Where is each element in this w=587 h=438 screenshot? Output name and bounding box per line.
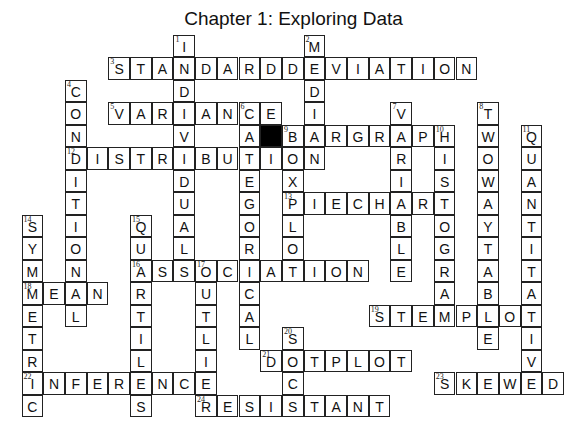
crossword-cell[interactable]: R [239,237,261,260]
crossword-cell[interactable]: E [239,170,261,193]
crossword-cell[interactable]: I [412,57,434,80]
crossword-cell[interactable]: L [477,305,499,328]
crossword-cell[interactable]: P [325,350,347,373]
crossword-cell[interactable]: O [282,147,304,170]
crossword-cell[interactable]: T [130,57,152,80]
crossword-cell[interactable]: 21D [260,350,282,373]
crossword-cell[interactable]: I [87,147,109,170]
crossword-cell[interactable]: N [347,260,369,283]
crossword-cell[interactable]: 7V [390,102,412,125]
crossword-cell[interactable]: A [239,125,261,148]
crossword-cell[interactable]: O [325,260,347,283]
crossword-cell[interactable]: 15Q [130,215,152,238]
crossword-cell[interactable]: R [412,192,434,215]
crossword-cell[interactable]: I [65,170,87,193]
crossword-cell[interactable]: C [217,260,239,283]
crossword-cell[interactable]: E [325,192,347,215]
crossword-cell[interactable]: F [65,372,87,395]
crossword-cell[interactable]: S [152,260,174,283]
crossword-cell[interactable]: C [22,395,44,418]
crossword-cell[interactable]: A [477,260,499,283]
crossword-cell[interactable]: 5V [108,102,130,125]
crossword-cell[interactable]: O [499,305,521,328]
crossword-cell[interactable]: R [130,282,152,305]
crossword-cell[interactable]: E [130,372,152,395]
crossword-cell[interactable]: A [390,125,412,148]
crossword-cell[interactable]: P [412,125,434,148]
crossword-cell[interactable]: Y [477,215,499,238]
crossword-cell[interactable]: O [239,215,261,238]
crossword-cell[interactable]: O [434,57,456,80]
crossword-cell[interactable]: N [347,395,369,418]
crossword-cell[interactable]: Y [22,237,44,260]
crossword-cell[interactable]: E [22,305,44,328]
crossword-cell[interactable]: D [542,372,564,395]
crossword-cell[interactable]: O [434,215,456,238]
crossword-cell[interactable]: T [130,305,152,328]
crossword-cell[interactable]: O [369,350,391,373]
crossword-cell[interactable]: V [325,57,347,80]
crossword-cell[interactable]: O [65,237,87,260]
crossword-cell[interactable]: 3S [108,57,130,80]
crossword-cell[interactable]: M [22,260,44,283]
crossword-cell[interactable]: 23S [434,372,456,395]
crossword-cell[interactable]: T [65,192,87,215]
crossword-cell[interactable]: O [282,237,304,260]
crossword-cell[interactable]: S [239,395,261,418]
crossword-cell[interactable]: B [195,147,217,170]
crossword-cell[interactable]: T [477,237,499,260]
crossword-cell[interactable]: 6C [239,102,261,125]
crossword-cell[interactable]: N [65,125,87,148]
crossword-cell[interactable]: T [130,147,152,170]
crossword-cell[interactable]: I [239,260,261,283]
crossword-cell[interactable]: L [282,215,304,238]
crossword-cell[interactable]: 24R [195,395,217,418]
crossword-cell[interactable]: L [173,237,195,260]
crossword-cell[interactable]: T [521,260,543,283]
crossword-cell[interactable]: N [173,57,195,80]
crossword-cell[interactable]: N [87,282,109,305]
crossword-cell[interactable]: D [173,80,195,103]
crossword-cell[interactable]: R [434,260,456,283]
crossword-cell[interactable]: L [65,305,87,328]
crossword-cell[interactable]: G [347,125,369,148]
crossword-cell[interactable]: 1I [173,35,195,58]
crossword-cell[interactable]: T [282,260,304,283]
crossword-cell[interactable]: H [369,192,391,215]
crossword-cell[interactable]: T [195,305,217,328]
crossword-cell[interactable]: 18M [22,282,44,305]
crossword-cell[interactable]: N [43,372,65,395]
crossword-cell[interactable]: W [477,125,499,148]
crossword-cell[interactable]: T [304,395,326,418]
crossword-cell[interactable]: R [325,125,347,148]
crossword-cell[interactable]: A [260,260,282,283]
crossword-cell[interactable]: 19S [369,305,391,328]
crossword-cell[interactable]: I [390,170,412,193]
crossword-cell[interactable]: T [390,305,412,328]
crossword-cell[interactable]: 9B [282,125,304,148]
crossword-cell[interactable]: N [456,57,478,80]
crossword-cell[interactable]: R [22,350,44,373]
crossword-cell[interactable]: I [521,327,543,350]
crossword-cell[interactable]: T [390,57,412,80]
crossword-cell[interactable]: E [390,260,412,283]
crossword-cell[interactable]: N [152,372,174,395]
crossword-cell[interactable]: E [87,372,109,395]
crossword-cell[interactable]: N [521,192,543,215]
crossword-cell[interactable]: U [130,237,152,260]
crossword-cell[interactable]: I [130,327,152,350]
crossword-cell[interactable]: A [304,125,326,148]
crossword-cell[interactable]: X [282,170,304,193]
crossword-cell[interactable]: S [282,395,304,418]
crossword-cell[interactable]: L [347,350,369,373]
crossword-cell[interactable]: I [260,395,282,418]
crossword-cell[interactable]: O [477,147,499,170]
crossword-cell[interactable]: R [152,147,174,170]
crossword-cell[interactable]: U [521,147,543,170]
crossword-cell[interactable]: E [195,372,217,395]
crossword-cell[interactable]: A [521,282,543,305]
crossword-cell[interactable]: L [239,327,261,350]
crossword-cell[interactable]: I [260,147,282,170]
crossword-cell[interactable]: D [304,80,326,103]
crossword-cell[interactable]: A [325,395,347,418]
